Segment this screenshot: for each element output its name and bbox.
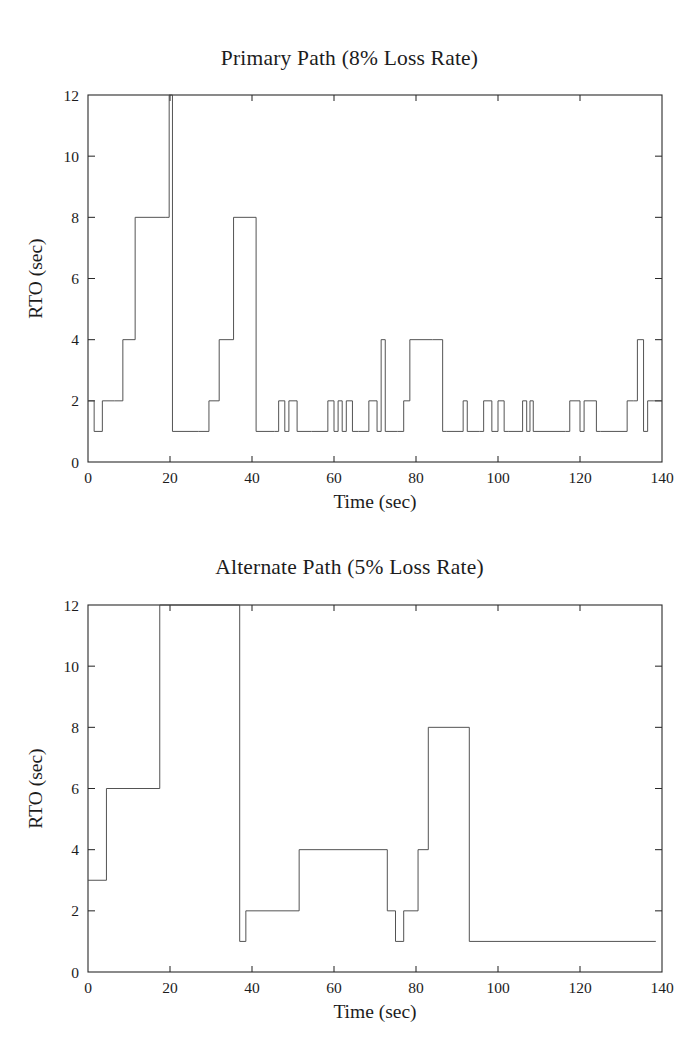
x-tick-label: 100 [486,469,510,486]
data-series-line [88,605,656,941]
y-tick-label: 10 [64,148,80,165]
y-tick-label: 6 [71,270,79,287]
plot-frame [88,605,662,972]
x-tick-label: 140 [650,469,674,486]
plot-area-primary: 020406080100120140024681012Time (sec)RTO… [0,0,699,522]
x-tick-label: 0 [84,979,92,996]
x-tick-label: 0 [84,469,92,486]
x-tick-label: 40 [244,469,260,486]
y-tick-label: 8 [71,209,79,226]
y-tick-label: 2 [71,902,79,919]
x-tick-label: 120 [568,469,592,486]
y-tick-label: 0 [71,964,79,981]
plot-area-alternate: 020406080100120140024681012Time (sec)RTO… [0,505,699,1044]
y-tick-label: 8 [71,719,79,736]
y-tick-label: 12 [64,87,80,104]
chart-alternate-path: Alternate Path (5% Loss Rate) 0204060801… [0,505,699,1044]
x-tick-label: 20 [162,469,178,486]
data-series-line [88,95,662,431]
x-tick-label: 20 [162,979,178,996]
y-tick-label: 12 [64,597,80,614]
x-tick-label: 100 [486,979,510,996]
x-tick-label: 80 [408,979,424,996]
y-tick-label: 2 [71,392,79,409]
y-tick-label: 0 [71,454,79,471]
x-tick-label: 80 [408,469,424,486]
x-tick-label: 40 [244,979,260,996]
y-tick-label: 6 [71,780,79,797]
plot-frame [88,95,662,462]
y-tick-label: 4 [71,841,79,858]
x-tick-label: 140 [650,979,674,996]
figure-page: Primary Path (8% Loss Rate) 020406080100… [0,0,699,1044]
chart-primary-path: Primary Path (8% Loss Rate) 020406080100… [0,0,699,522]
x-axis-label: Time (sec) [333,1001,416,1023]
x-tick-label: 120 [568,979,592,996]
x-tick-label: 60 [326,979,342,996]
y-axis-label: RTO (sec) [25,748,47,828]
x-tick-label: 60 [326,469,342,486]
y-axis-label: RTO (sec) [25,238,47,318]
y-tick-label: 10 [64,658,80,675]
y-tick-label: 4 [71,331,79,348]
